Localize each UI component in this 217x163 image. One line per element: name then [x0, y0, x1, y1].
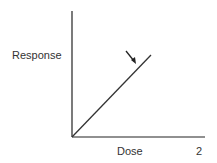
dose-response-plot — [0, 0, 217, 163]
x-axis-label: Dose — [117, 145, 143, 157]
figure-number: 2 — [196, 145, 202, 157]
y-axis-label: Response — [12, 49, 62, 61]
response-line — [72, 55, 151, 137]
arrow-icon — [126, 51, 136, 64]
